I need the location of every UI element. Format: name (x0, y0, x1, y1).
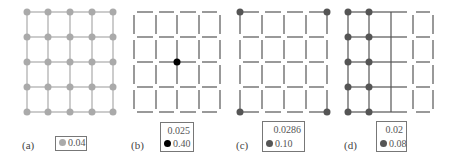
node-dot-icon (366, 84, 373, 91)
node-dot-icon (345, 109, 352, 116)
node-dot-icon (67, 9, 74, 16)
node-dot-icon (345, 84, 352, 91)
node-dot-icon (366, 34, 373, 41)
node-dot-icon (345, 59, 352, 66)
node-dot-icon (24, 34, 31, 41)
node-dot-icon (45, 59, 52, 66)
legend-c: 0.0286 0.10 (262, 121, 305, 152)
node-dot-icon (67, 84, 74, 91)
node-dot-icon (237, 109, 244, 116)
node-dot-icon (89, 9, 96, 16)
panel-label-c: (c) (236, 139, 248, 151)
panel-label-a: (a) (22, 139, 34, 151)
node-dot-icon (345, 9, 352, 16)
legend-c-value: 0.10 (275, 138, 293, 149)
dot-icon (380, 140, 387, 147)
legend-a: 0.04 (55, 136, 87, 151)
node-dot-icon (45, 34, 52, 41)
node-dot-icon (24, 9, 31, 16)
node-dot-icon (24, 59, 31, 66)
node-dot-icon (110, 59, 117, 66)
legend-b-value: 0.40 (173, 138, 191, 149)
node-dot-icon (345, 34, 352, 41)
node-dot-icon (110, 9, 117, 16)
node-dot-icon (45, 109, 52, 116)
panel-label-d: (d) (344, 139, 357, 151)
node-dot-icon (89, 59, 96, 66)
dot-icon (59, 139, 66, 146)
node-dot-icon (366, 59, 373, 66)
legend-d-top-value: 0.02 (386, 124, 404, 135)
node-dot-icon (24, 109, 31, 116)
node-dot-icon (89, 84, 96, 91)
legend-d-value: 0.08 (389, 138, 407, 149)
node-dot-icon (324, 9, 331, 16)
node-dot-icon (366, 109, 373, 116)
node-dot-icon (110, 109, 117, 116)
node-dot-icon (45, 84, 52, 91)
legend-b: 0.025 0.40 (160, 122, 194, 152)
node-dot-icon (67, 59, 74, 66)
node-dot-icon (366, 9, 373, 16)
node-dot-icon (89, 109, 96, 116)
legend-c-top-value: 0.0286 (274, 124, 302, 135)
legend-a-value: 0.04 (68, 137, 86, 148)
dot-icon (164, 140, 171, 147)
node-dot-icon (110, 34, 117, 41)
node-dot-icon (67, 109, 74, 116)
node-dot-icon (67, 34, 74, 41)
panel-label-b: (b) (131, 139, 144, 151)
dot-icon (266, 140, 273, 147)
legend-b-top-value: 0.025 (168, 125, 191, 136)
node-dot-icon (237, 9, 244, 16)
legend-d: 0.02 0.08 (376, 121, 407, 152)
node-dot-icon (45, 9, 52, 16)
node-dot-icon (324, 109, 331, 116)
node-dot-icon (110, 84, 117, 91)
node-dot-icon (174, 59, 181, 66)
node-dot-icon (89, 34, 96, 41)
node-dot-icon (24, 84, 31, 91)
